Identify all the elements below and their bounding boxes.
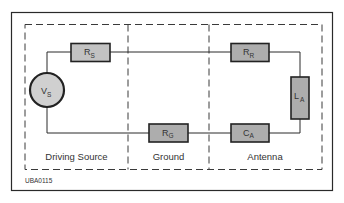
dashed-boundary <box>25 25 322 170</box>
figure-code: UBA0115 <box>25 177 53 184</box>
resistor-rr: RR <box>231 44 269 62</box>
section-label-driving-source: Driving Source <box>45 151 107 162</box>
inductor-la: LA <box>291 77 309 119</box>
resistor-rs: RS <box>71 44 110 62</box>
section-label-ground: Ground <box>153 151 185 162</box>
voltage-source-vs: VS <box>30 73 64 107</box>
resistor-rg: RG <box>149 124 188 142</box>
wires <box>47 52 300 133</box>
capacitor-ca: CA <box>231 124 269 142</box>
antenna-circuit-diagram: VS RS RR LA RG CA Driving Source Ground … <box>0 0 344 203</box>
section-label-antenna: Antenna <box>247 151 283 162</box>
